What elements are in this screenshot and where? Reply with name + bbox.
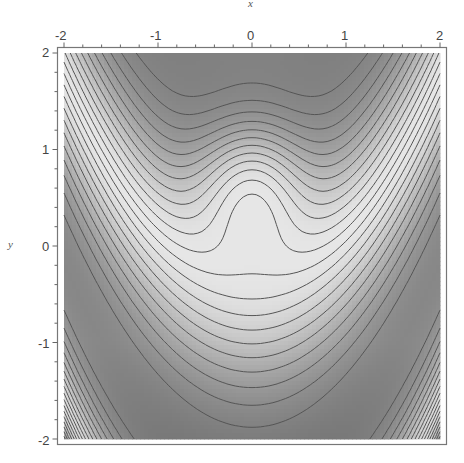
contour-plot (0, 0, 464, 463)
